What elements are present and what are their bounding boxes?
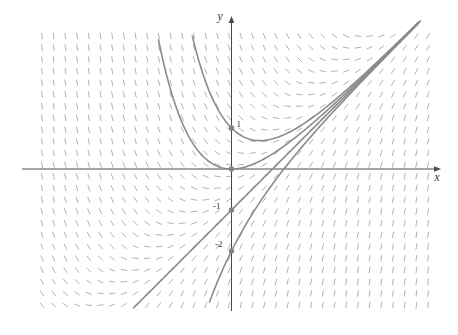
- slope-mark: [228, 68, 230, 74]
- slope-mark: [428, 302, 429, 308]
- slope-mark: [252, 267, 254, 273]
- slope-mark: [168, 198, 173, 202]
- slope-mark: [53, 103, 54, 109]
- slope-mark: [181, 91, 183, 97]
- slope-mark: [167, 235, 173, 236]
- slope-mark: [416, 150, 418, 156]
- slope-mark: [428, 290, 429, 296]
- slope-mark: [356, 92, 360, 97]
- slope-field-figure: xy1-1-2: [0, 0, 458, 335]
- slope-mark: [77, 56, 78, 62]
- slope-mark: [263, 267, 265, 273]
- slope-mark: [53, 232, 55, 238]
- slope-mark: [321, 34, 326, 39]
- slope-mark: [286, 57, 290, 62]
- slope-mark: [227, 103, 230, 109]
- slope-mark: [42, 80, 43, 86]
- slope-mark: [381, 267, 382, 273]
- slope-mark: [273, 140, 279, 142]
- slope-mark: [53, 44, 54, 50]
- slope-mark: [112, 33, 113, 39]
- slope-mark: [263, 209, 266, 215]
- slope-mark: [156, 234, 162, 235]
- slope-mark: [428, 197, 429, 203]
- slope-mark: [133, 245, 139, 248]
- slope-mark: [261, 117, 267, 120]
- slope-mark: [368, 103, 371, 109]
- slope-mark: [286, 174, 290, 179]
- slope-mark: [285, 81, 290, 85]
- initial-condition-dot: [229, 166, 234, 171]
- slope-mark: [298, 162, 302, 167]
- slope-mark: [40, 291, 43, 297]
- slope-mark: [88, 103, 89, 109]
- slope-mark: [51, 303, 56, 308]
- slope-mark: [262, 186, 266, 191]
- slope-mark: [215, 232, 219, 237]
- slope-mark: [98, 268, 103, 272]
- slope-mark: [346, 279, 347, 285]
- slope-mark: [262, 92, 267, 97]
- slope-mark: [100, 103, 101, 109]
- slope-mark: [357, 290, 358, 296]
- slope-mark: [179, 211, 185, 212]
- slope-mark: [146, 150, 148, 156]
- slope-mark: [144, 246, 150, 247]
- slope-mark: [251, 197, 255, 202]
- slope-mark: [333, 138, 336, 144]
- slope-mark: [275, 220, 278, 226]
- slope-mark: [404, 138, 406, 144]
- slope-mark: [65, 103, 66, 109]
- slope-mark: [123, 115, 125, 121]
- slope-mark: [145, 280, 150, 284]
- slope-mark: [168, 256, 173, 260]
- slope-mark: [123, 185, 126, 191]
- slope-mark: [310, 267, 311, 273]
- slope-mark: [42, 44, 43, 50]
- slope-mark: [146, 115, 148, 121]
- slope-mark: [133, 280, 139, 282]
- slope-mark: [53, 56, 54, 62]
- solution-curve: [210, 24, 418, 302]
- slope-mark: [63, 303, 68, 307]
- slope-mark: [357, 150, 359, 156]
- slope-mark: [110, 244, 115, 249]
- slope-mark: [76, 220, 78, 226]
- slope-mark: [53, 220, 55, 226]
- slope-mark: [321, 139, 325, 144]
- slope-mark: [170, 115, 172, 121]
- slope-mark: [193, 115, 196, 121]
- slope-mark: [428, 255, 429, 261]
- slope-mark: [123, 126, 125, 132]
- slope-mark: [227, 115, 231, 120]
- slope-mark: [381, 302, 382, 308]
- slope-mark: [228, 33, 230, 39]
- slope-mark: [427, 126, 429, 132]
- slope-mark: [263, 33, 265, 39]
- slope-mark: [333, 150, 336, 156]
- slope-mark: [390, 34, 395, 38]
- slope-mark: [191, 187, 197, 190]
- slope-mark: [112, 45, 113, 51]
- slope-mark: [252, 302, 254, 308]
- slope-mark: [381, 185, 383, 191]
- slope-mark: [180, 267, 184, 272]
- slope-mark: [181, 302, 184, 308]
- slope-mark: [122, 221, 126, 226]
- slope-mark: [275, 290, 277, 296]
- slope-mark: [392, 173, 394, 179]
- slope-mark: [273, 129, 279, 130]
- slope-mark: [357, 232, 358, 238]
- slope-mark: [308, 70, 314, 73]
- slope-mark: [240, 255, 243, 261]
- slope-mark: [238, 152, 244, 153]
- slope-mark: [322, 267, 323, 273]
- slope-mark: [134, 173, 137, 179]
- slope-mark: [214, 188, 220, 189]
- slope-mark: [158, 150, 161, 156]
- slope-mark: [416, 232, 417, 238]
- slope-mark: [368, 127, 371, 133]
- slope-mark: [76, 208, 78, 214]
- slope-mark: [320, 71, 326, 72]
- slope-mark: [357, 243, 358, 249]
